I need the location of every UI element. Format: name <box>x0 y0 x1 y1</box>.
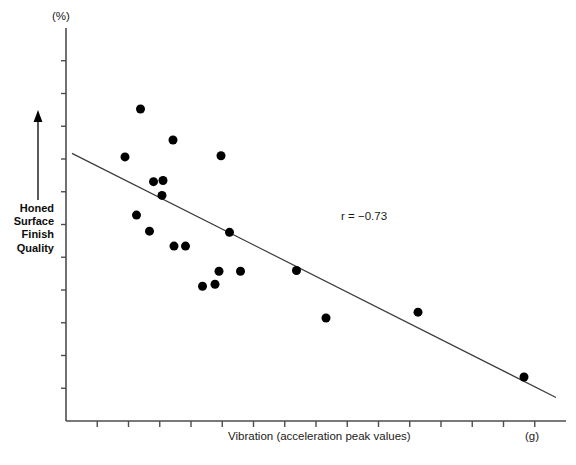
y-axis-direction-arrow <box>34 110 43 200</box>
data-point <box>170 242 179 251</box>
data-point <box>225 228 234 237</box>
y-axis-title: HonedSurfaceFinishQuality <box>0 202 54 255</box>
y-axis-title-line: Quality <box>0 242 54 255</box>
data-point <box>292 266 301 275</box>
y-axis-title-line: Surface <box>0 215 54 228</box>
data-point <box>322 314 331 323</box>
data-point <box>158 191 167 200</box>
data-point <box>215 267 224 276</box>
regression-trend-line <box>72 153 556 397</box>
scatter-plot-canvas <box>0 0 576 465</box>
data-point <box>149 177 158 186</box>
data-point <box>217 151 226 160</box>
x-axis-title: Vibration (acceleration peak values) <box>228 430 411 442</box>
x-axis-unit-label: (g) <box>525 430 539 442</box>
data-point <box>145 227 154 236</box>
correlation-annotation: r = −0.73 <box>341 210 387 222</box>
y-axis-title-line: Finish <box>0 228 54 241</box>
data-point <box>169 136 178 145</box>
data-point <box>136 104 145 113</box>
y-axis-title-line: Honed <box>0 202 54 215</box>
data-point <box>121 152 130 161</box>
y-axis-unit-label: (%) <box>52 10 70 22</box>
chart-page: (%) Vibration (acceleration peak values)… <box>0 0 576 465</box>
data-point <box>520 372 529 381</box>
data-point <box>132 211 141 220</box>
axes-group <box>61 28 566 427</box>
data-point <box>236 267 245 276</box>
data-point <box>198 282 207 291</box>
data-point <box>211 280 220 289</box>
data-point <box>181 242 190 251</box>
arrow-head <box>34 110 43 122</box>
data-points-group <box>121 104 529 381</box>
trend-line-segment <box>72 153 556 397</box>
data-point <box>159 176 168 185</box>
data-point <box>414 308 423 317</box>
